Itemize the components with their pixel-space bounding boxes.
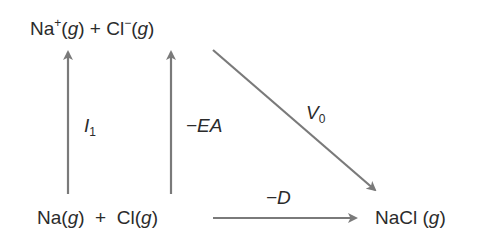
chlorine-atom: Cl <box>117 207 135 228</box>
state-label: (g) <box>61 18 84 39</box>
lattice-energy-arrow <box>213 50 375 190</box>
chlorine-species: Cl <box>106 18 124 39</box>
born-haber-diagram: Na+(g) + Cl−(g) Na(g) + Cl(g) NaCl (g) I… <box>0 0 481 243</box>
sodium-atom: Na <box>37 207 61 228</box>
ions-node: Na+(g) + Cl−(g) <box>30 18 154 40</box>
state-label: (g) <box>135 207 158 228</box>
nacl-species: NaCl <box>375 207 417 228</box>
dissociation-label: −D <box>266 187 291 209</box>
lattice-energy-label: V0 <box>306 102 325 124</box>
electron-affinity-label: −EA <box>186 115 222 137</box>
plus-sign: + <box>95 207 106 228</box>
ionization-label: I1 <box>84 115 96 137</box>
state-label: (g) <box>61 207 84 228</box>
state-label: (g) <box>423 207 446 228</box>
state-label: (g) <box>131 18 154 39</box>
product-node: NaCl (g) <box>375 207 446 229</box>
atoms-node: Na(g) + Cl(g) <box>37 207 158 229</box>
sodium-species: Na <box>30 18 54 39</box>
plus-sign: + <box>90 18 101 39</box>
